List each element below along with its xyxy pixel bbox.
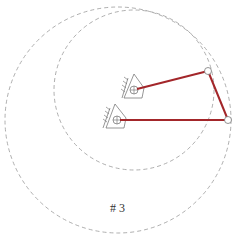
- joint-b-icon: [225, 117, 232, 124]
- four-bar-linkage-diagram: # 3: [0, 0, 236, 242]
- upper-ground-pivot-icon: [121, 74, 144, 98]
- lower-ground-pivot-icon: [103, 104, 126, 128]
- upper-crank-link: [137, 71, 208, 89]
- diagram-label: # 3: [110, 201, 125, 215]
- joint-a-icon: [205, 68, 212, 75]
